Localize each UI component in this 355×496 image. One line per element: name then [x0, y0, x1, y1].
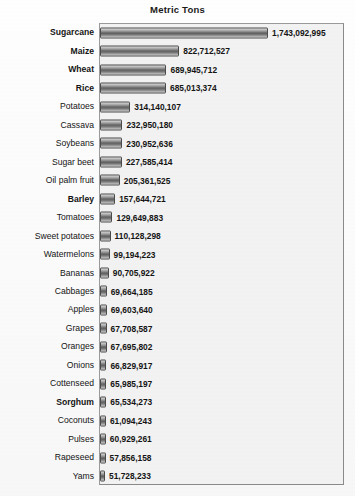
bar-and-value: 69,603,640 — [100, 304, 153, 315]
bar-row: Pulses60,929,261 — [0, 430, 355, 449]
bar — [100, 341, 107, 352]
value-label: 67,695,802 — [111, 343, 153, 351]
value-label: 157,644,721 — [119, 195, 166, 203]
bar — [100, 249, 110, 260]
bar — [100, 156, 122, 167]
bar — [100, 415, 106, 426]
category-label: Bananas — [0, 269, 94, 278]
category-label: Cottenseed — [0, 379, 94, 388]
bar — [100, 471, 105, 482]
bar — [100, 230, 111, 241]
bar-row: Sugarcane1,743,092,995 — [0, 23, 355, 42]
bar — [100, 323, 107, 334]
bar-row: Cassava232,950,180 — [0, 115, 355, 134]
bar-row: Rice685,013,374 — [0, 78, 355, 97]
bar — [100, 46, 179, 57]
bar-row: Cottenseed65,985,197 — [0, 374, 355, 393]
bar — [100, 83, 166, 94]
value-label: 1,743,092,995 — [272, 28, 326, 36]
bar — [100, 119, 122, 130]
bar-row: Rapeseed57,856,158 — [0, 448, 355, 467]
bar-row: Wheat689,945,712 — [0, 60, 355, 79]
bar-row: Apples69,603,640 — [0, 300, 355, 319]
category-label: Coconuts — [0, 416, 94, 425]
category-label: Oil palm fruit — [0, 176, 94, 185]
bar-row: Oranges67,695,802 — [0, 337, 355, 356]
value-label: 69,664,185 — [111, 287, 153, 295]
bar-row: Maize822,712,527 — [0, 41, 355, 60]
value-label: 61,094,243 — [110, 416, 152, 424]
bar-row: Watermelons99,194,223 — [0, 245, 355, 264]
bar-and-value: 129,649,883 — [100, 212, 163, 223]
category-label: Cassava — [0, 121, 94, 130]
bar — [100, 175, 120, 186]
value-label: 232,950,180 — [126, 121, 173, 129]
bar-and-value: 65,985,197 — [100, 378, 152, 389]
value-label: 66,829,917 — [110, 361, 152, 369]
bar-chart: Metric Tons Sugarcane1,743,092,995Maize8… — [0, 0, 355, 496]
value-label: 689,945,712 — [170, 65, 217, 73]
value-label: 57,856,158 — [110, 453, 152, 461]
bar — [100, 101, 130, 112]
value-label: 129,649,883 — [116, 213, 163, 221]
bar-row: Yams51,728,233 — [0, 467, 355, 486]
bar — [100, 304, 107, 315]
bar-row: Coconuts61,094,243 — [0, 411, 355, 430]
bar-and-value: 685,013,374 — [100, 83, 217, 94]
bar-and-value: 822,712,527 — [100, 46, 230, 57]
bar — [100, 267, 109, 278]
bar-row: Bananas90,705,922 — [0, 263, 355, 282]
category-label: Yams — [0, 472, 94, 481]
bar-and-value: 689,945,712 — [100, 64, 217, 75]
value-label: 60,929,261 — [110, 435, 152, 443]
category-label: Barley — [0, 195, 94, 204]
bar — [100, 360, 106, 371]
bar — [100, 193, 115, 204]
category-label: Soybeans — [0, 139, 94, 148]
category-label: Onions — [0, 361, 94, 370]
value-label: 65,534,273 — [110, 398, 152, 406]
bar-row: Soybeans230,952,636 — [0, 134, 355, 153]
category-label: Tomatoes — [0, 213, 94, 222]
category-label: Potatoes — [0, 102, 94, 111]
category-label: Cabbages — [0, 287, 94, 296]
bar-row: Onions66,829,917 — [0, 356, 355, 375]
category-label: Sugar beet — [0, 158, 94, 167]
value-label: 227,585,414 — [126, 158, 173, 166]
bar — [100, 138, 122, 149]
category-label: Sorghum — [0, 398, 94, 407]
value-label: 67,708,587 — [111, 324, 153, 332]
bar — [100, 212, 112, 223]
category-label: Pulses — [0, 435, 94, 444]
bar-row: Sorghum65,534,273 — [0, 393, 355, 412]
bar-and-value: 99,194,223 — [100, 249, 155, 260]
bar-and-value: 65,534,273 — [100, 397, 152, 408]
bar-and-value: 232,950,180 — [100, 119, 173, 130]
category-label: Rapeseed — [0, 453, 94, 462]
value-label: 69,603,640 — [111, 306, 153, 314]
value-label: 90,705,922 — [113, 269, 155, 277]
value-label: 99,194,223 — [114, 250, 156, 258]
bar-and-value: 51,728,233 — [100, 471, 151, 482]
bar — [100, 64, 166, 75]
bar-and-value: 230,952,636 — [100, 138, 173, 149]
bar — [100, 27, 268, 38]
category-label: Sweet potatoes — [0, 232, 94, 241]
bar-and-value: 227,585,414 — [100, 156, 173, 167]
category-label: Maize — [0, 47, 94, 56]
category-label: Rice — [0, 84, 94, 93]
bar-and-value: 67,695,802 — [100, 341, 152, 352]
bar-row: Grapes67,708,587 — [0, 319, 355, 338]
bar-row: Tomatoes129,649,883 — [0, 208, 355, 227]
bar-and-value: 67,708,587 — [100, 323, 152, 334]
category-label: Apples — [0, 305, 94, 314]
bar-row: Barley157,644,721 — [0, 189, 355, 208]
bar — [100, 378, 106, 389]
bar — [100, 452, 106, 463]
bar-and-value: 1,743,092,995 — [100, 27, 326, 38]
value-label: 314,140,107 — [134, 102, 181, 110]
value-label: 685,013,374 — [170, 84, 217, 92]
bar-row: Potatoes314,140,107 — [0, 97, 355, 116]
bar-and-value: 110,128,298 — [100, 230, 161, 241]
value-label: 51,728,233 — [109, 472, 151, 480]
